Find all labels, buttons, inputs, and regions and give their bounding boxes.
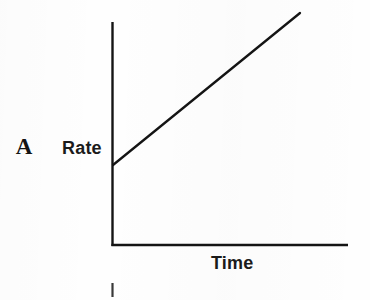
data-line-rate-vs-time <box>113 13 300 165</box>
plot-area <box>0 0 370 300</box>
figure-panel: A Rate Time <box>0 0 370 300</box>
